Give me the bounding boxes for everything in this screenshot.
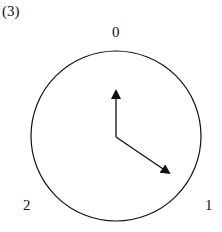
diagonal-arrow	[116, 137, 169, 173]
dial-diagram	[0, 0, 222, 232]
